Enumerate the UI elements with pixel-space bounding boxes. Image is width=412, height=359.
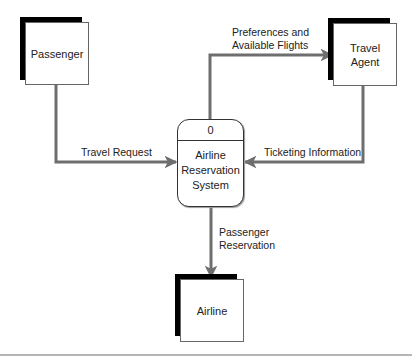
label-preferences: Preferences and Available Flights	[232, 26, 309, 52]
process-name: Airline Reservation System	[178, 141, 243, 193]
entity-label-line: Agent	[351, 56, 380, 68]
label-line: Reservation	[219, 239, 275, 251]
footer-divider	[0, 354, 412, 356]
entity-box: Passenger	[25, 22, 89, 85]
process-id: 0	[178, 120, 243, 141]
process-name-line: Reservation	[181, 164, 240, 176]
entity-box: Travel Agent	[333, 23, 397, 86]
entity-label: Passenger	[31, 47, 84, 61]
flow-preferences	[210, 55, 332, 119]
process-name-line: Airline	[195, 149, 226, 161]
label-passenger-reservation: Passenger Reservation	[219, 226, 275, 252]
label-line: Preferences and	[232, 26, 309, 38]
process-airline-reservation-system: 0 Airline Reservation System	[177, 119, 244, 207]
entity-box: Airline	[180, 279, 244, 342]
entity-label: Airline	[197, 304, 228, 318]
process-name-line: System	[192, 179, 229, 191]
label-line: Available Flights	[232, 39, 308, 51]
label-ticketing: Ticketing Information	[264, 146, 361, 159]
label-line: Passenger	[219, 226, 269, 238]
entity-label-line: Travel	[350, 42, 380, 54]
label-travel-request: Travel Request	[81, 146, 152, 159]
